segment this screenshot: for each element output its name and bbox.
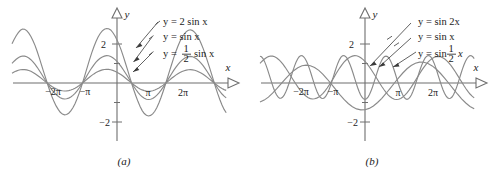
caption-a: (a): [0, 155, 248, 167]
curve-label-sin-half-x: y = sin 1 2 x: [418, 43, 463, 64]
y-tick-label-neg2-b: −2: [347, 117, 358, 128]
y-axis-label-a: y: [124, 8, 130, 20]
svg-text:y = sin: y = sin: [418, 48, 447, 59]
chart-b-svg: y x −2π −π π 2π 2 −2 y = sin 2x y = sin …: [248, 0, 496, 181]
chart-a-svg: y x −2π −π π 2π 2 −2 y = 2 sin x y = sin…: [0, 0, 248, 181]
x-axis-label-b: x: [473, 61, 479, 73]
svg-text:sin x: sin x: [194, 48, 215, 59]
chart-a-annotation-arrows: [133, 21, 160, 72]
svg-text:x: x: [457, 48, 463, 59]
figure-trig-graphs: y x −2π −π π 2π 2 −2 y = 2 sin x y = sin…: [0, 0, 496, 181]
curve-label-2sinx: y = 2 sin x: [163, 16, 208, 27]
x-tick-label-2pi-b: 2π: [428, 87, 438, 98]
curve-sin-x-b: [260, 56, 474, 100]
y-tick-label-2-a: 2: [101, 39, 106, 50]
curve-label-sinx-b: y = sin x: [418, 31, 455, 42]
chart-b-labels: y x −2π −π π 2π 2 −2 y = sin 2x y = sin …: [293, 8, 478, 128]
x-axis-label-a: x: [225, 61, 231, 73]
curve-label-sinx-a: y = sin x: [163, 31, 200, 42]
x-tick-label-pi-b: π: [395, 87, 400, 98]
curve-label-sin2x: y = sin 2x: [418, 16, 461, 27]
panel-a: y x −2π −π π 2π 2 −2 y = 2 sin x y = sin…: [0, 0, 248, 181]
svg-text:y =: y =: [163, 48, 177, 59]
y-tick-label-neg2-a: −2: [99, 117, 110, 128]
y-axis-label-b: y: [372, 8, 378, 20]
x-tick-label-neg2pi-a: −2π: [45, 86, 61, 97]
x-tick-label-pi-a: π: [145, 87, 150, 98]
svg-text:2: 2: [183, 53, 188, 64]
panel-b: y x −2π −π π 2π 2 −2 y = sin 2x y = sin …: [248, 0, 496, 181]
chart-b-annotation-arrows: [370, 23, 416, 67]
y-tick-label-2-b: 2: [349, 39, 354, 50]
x-tick-label-negpi-b: −π: [328, 86, 339, 97]
x-tick-label-2pi-a: 2π: [178, 87, 188, 98]
x-tick-label-neg2pi-b: −2π: [293, 86, 309, 97]
caption-b: (b): [248, 155, 496, 167]
x-tick-label-negpi-a: −π: [80, 86, 91, 97]
chart-a-labels: y x −2π −π π 2π 2 −2 y = 2 sin x y = sin…: [45, 8, 230, 128]
curve-sin-x: [12, 56, 226, 100]
svg-text:2: 2: [448, 53, 453, 64]
